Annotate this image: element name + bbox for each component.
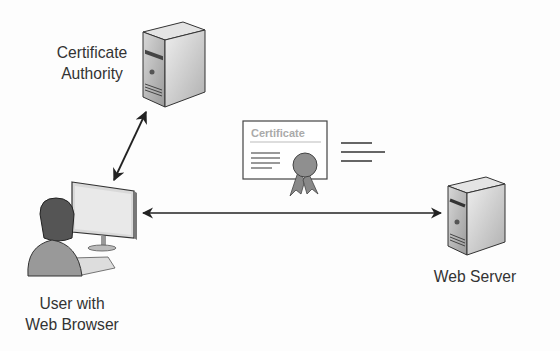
user-label-line2: Web Browser — [13, 314, 131, 335]
ca-label: Certificate Authority — [46, 42, 138, 84]
certificate-icon: Certificate — [243, 121, 385, 196]
web-server-icon — [448, 177, 505, 255]
web-server-label: Web Server — [424, 266, 525, 287]
user-computer-icon — [28, 182, 137, 276]
certificate-title: Certificate — [251, 127, 305, 139]
ca-label-line1: Certificate — [46, 42, 138, 63]
ca-user-arrow — [114, 112, 146, 180]
user-label: User with Web Browser — [13, 293, 131, 335]
ca-server-icon — [143, 22, 205, 107]
ca-label-line2: Authority — [46, 63, 138, 84]
user-label-line1: User with — [13, 293, 131, 314]
